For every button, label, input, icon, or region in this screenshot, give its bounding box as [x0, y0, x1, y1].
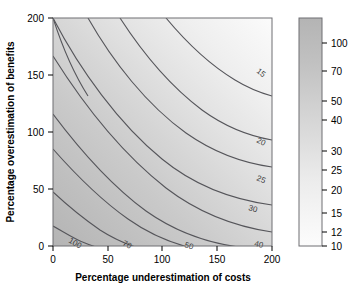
x-tick-label-150: 150	[209, 254, 226, 265]
colorbar-tick-label-100: 100	[331, 38, 348, 49]
plot-area-background	[53, 18, 272, 246]
colorbar-tick-label-15: 15	[331, 208, 343, 219]
contour-label-40: 40	[254, 239, 265, 250]
colorbar-tick-label-40: 40	[331, 115, 343, 126]
y-tick-label-0: 0	[38, 241, 44, 252]
y-axis: 0 50 100 150 200 Percentage overestimati…	[5, 13, 53, 252]
colorbar-tick-label-30: 30	[331, 146, 343, 157]
x-tick-label-100: 100	[154, 254, 171, 265]
contour-plot-figure: 100 70 50 40 30 25 20 15 0 50 100 150 20…	[0, 0, 358, 292]
colorbar-tick-label-70: 70	[331, 66, 343, 77]
colorbar-gradient	[299, 18, 322, 246]
x-axis: 0 50 100 150 200 Percentage underestimat…	[50, 246, 281, 283]
y-tick-label-200: 200	[27, 13, 44, 24]
y-tick-label-50: 50	[33, 184, 45, 195]
colorbar-tick-label-25: 25	[331, 165, 343, 176]
x-tick-label-200: 200	[264, 254, 281, 265]
x-tick-label-50: 50	[102, 254, 114, 265]
colorbar-tick-label-12: 12	[331, 227, 343, 238]
y-tick-label-100: 100	[27, 127, 44, 138]
colorbar-tick-label-20: 20	[331, 185, 343, 196]
colorbar-tick-label-10: 10	[331, 241, 343, 252]
y-tick-label-150: 150	[27, 70, 44, 81]
colorbar-tick-label-50: 50	[331, 96, 343, 107]
colorbar: 100 70 50 40 30 25 20 15 12 10	[299, 18, 348, 252]
chart-canvas: 100 70 50 40 30 25 20 15 0 50 100 150 20…	[0, 0, 358, 292]
y-axis-label: Percentage overestimation of benefits	[5, 41, 16, 223]
x-axis-label: Percentage underestimation of costs	[75, 272, 251, 283]
x-tick-label-0: 0	[50, 254, 56, 265]
